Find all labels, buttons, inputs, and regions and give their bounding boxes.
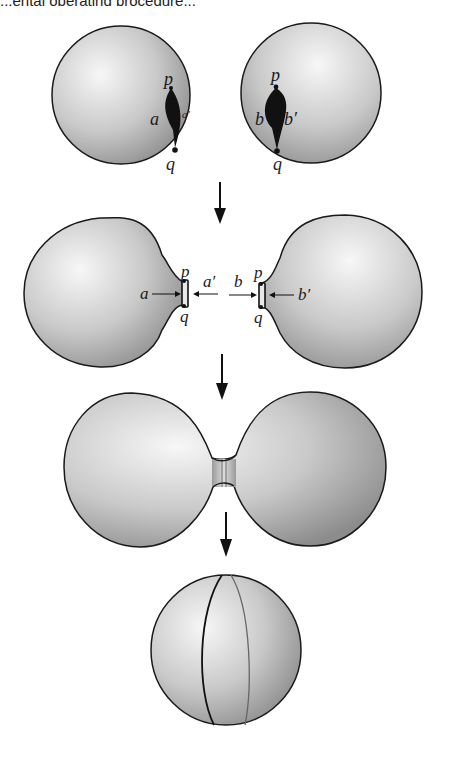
label-b: b (234, 272, 243, 291)
label-a: a (150, 109, 159, 129)
stage1-left-sphere: p a a′ q (52, 26, 191, 174)
stage2-left-sphere: a a′ p q (24, 218, 218, 367)
label-b-prime: b′ (284, 109, 298, 129)
stage-4 (151, 575, 301, 725)
label-a: a (140, 284, 149, 303)
surgery-diagram: p a a′ q p b b′ q (0, 0, 450, 763)
label-q: q (166, 154, 175, 174)
label-a-prime: a′ (182, 108, 191, 120)
down-arrow-icon (220, 512, 232, 557)
stage2-right-sphere: b b′ p q (229, 215, 422, 368)
label-b: b (255, 109, 264, 129)
stage1-right-sphere: p b b′ q (241, 23, 381, 174)
stage-2: a a′ p q b b′ p q (24, 215, 422, 368)
label-a-prime: a′ (203, 272, 216, 291)
label-p: p (180, 262, 190, 281)
down-arrow-icon (214, 182, 226, 224)
label-q: q (273, 154, 282, 174)
label-p: p (253, 263, 263, 282)
stage-1: p a a′ q p b b′ q (52, 23, 381, 174)
label-p: p (269, 65, 280, 85)
label-b-prime: b′ (298, 285, 311, 304)
down-arrow-icon (216, 354, 228, 400)
label-q: q (254, 308, 263, 327)
label-q: q (180, 307, 189, 326)
label-p: p (162, 69, 173, 89)
